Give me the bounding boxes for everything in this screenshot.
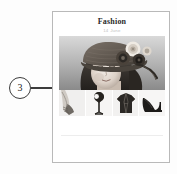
screenshot-canvas: 3 Fashion 14 June: [0, 0, 177, 174]
footer-divider: [61, 135, 163, 136]
thumbnail-item-high-heel[interactable]: [139, 90, 165, 116]
page-title: Fashion: [59, 17, 165, 27]
thumbnail-item-coat[interactable]: [113, 90, 139, 116]
page-subtitle: 14 June: [59, 27, 165, 34]
thumbnail-item-accessory[interactable]: [86, 90, 112, 116]
page-panel: Fashion 14 June: [52, 11, 170, 163]
annotation-callout-number: 3: [18, 83, 23, 93]
thumbnail-strip: [59, 90, 165, 116]
annotation-callout-marker[interactable]: 3: [9, 77, 31, 99]
page-content: Fashion 14 June: [59, 17, 165, 158]
thumbnail-item-boot[interactable]: [59, 90, 85, 116]
hero-photo[interactable]: [59, 36, 165, 90]
